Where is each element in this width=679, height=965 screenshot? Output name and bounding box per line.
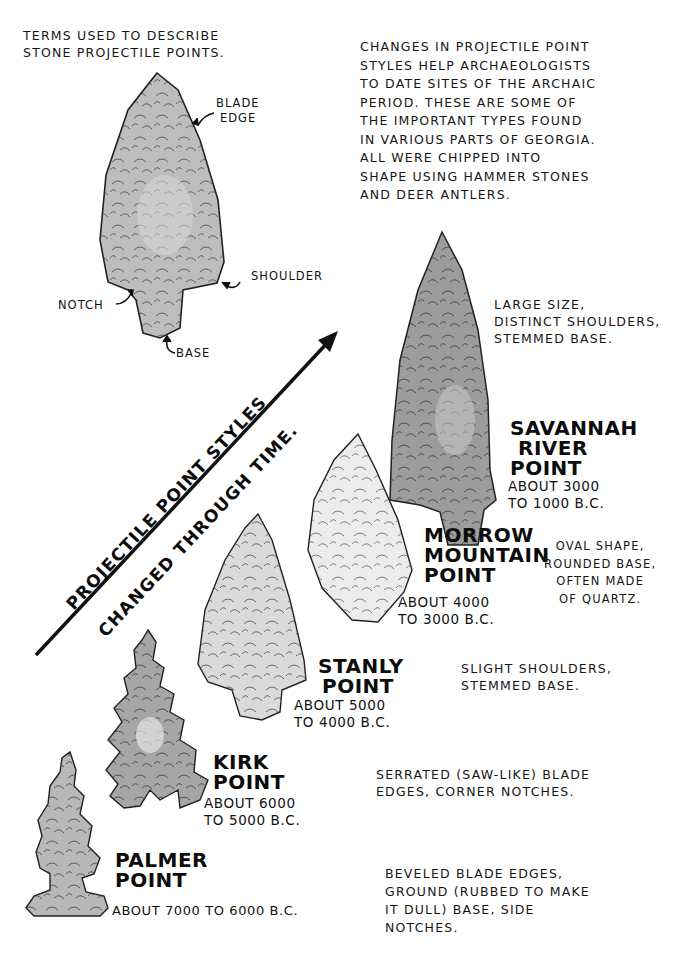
intro-line: All were chipped into bbox=[360, 149, 596, 168]
savannah-river-description: Large size, distinct shoulders, stemmed … bbox=[494, 296, 660, 347]
point-name-line: Point bbox=[510, 458, 638, 478]
point-name-line: Savannah bbox=[510, 418, 638, 438]
date-line: About 6000 bbox=[204, 795, 300, 812]
description-line: of quartz. bbox=[544, 591, 656, 609]
intro-line: shape using hammer stones bbox=[360, 168, 596, 187]
point-name-line: Palmer bbox=[115, 850, 208, 870]
palmer-name: Palmer Point bbox=[115, 850, 208, 890]
terms-heading: Terms used to describe stone projectile … bbox=[23, 27, 225, 61]
point-name-line: Mountain bbox=[424, 545, 550, 565]
date-line: About 5000 bbox=[294, 697, 390, 714]
date-line: About 3000 bbox=[508, 478, 604, 495]
description-line: Oval shape, bbox=[544, 538, 656, 556]
savannah-river-point-illustration bbox=[390, 232, 496, 545]
date-line: to 5000 B.C. bbox=[204, 812, 300, 829]
point-name-line: Morrow bbox=[424, 525, 550, 545]
terms-heading-line-2: stone projectile points. bbox=[23, 44, 225, 61]
date-line: About 7000 to 6000 B.C. bbox=[112, 902, 298, 919]
stanly-point-illustration bbox=[198, 514, 306, 720]
label-notch: Notch bbox=[58, 298, 104, 312]
kirk-name: Kirk Point bbox=[213, 752, 285, 792]
description-line: distinct shoulders, bbox=[494, 313, 660, 330]
kirk-date: About 6000 to 5000 B.C. bbox=[204, 795, 300, 829]
description-line: rounded base, bbox=[544, 556, 656, 574]
description-line: often made bbox=[544, 573, 656, 591]
point-name-line: Point bbox=[424, 565, 550, 585]
description-line: Large size, bbox=[494, 296, 660, 313]
label-blade-edge: Blade Edge bbox=[216, 96, 260, 126]
intro-line: the important types found bbox=[360, 112, 596, 131]
kirk-description: Serrated (saw-like) blade edges, corner … bbox=[376, 766, 590, 800]
palmer-date: About 7000 to 6000 B.C. bbox=[112, 902, 298, 919]
savannah-river-name: Savannah River Point bbox=[510, 418, 638, 478]
point-name-line: Point bbox=[115, 870, 208, 890]
label-shoulder: Shoulder bbox=[251, 269, 323, 283]
label-blade-edge-line-2: Edge bbox=[216, 111, 260, 126]
label-blade-edge-line-1: Blade bbox=[216, 96, 260, 111]
stanly-name: Stanly Point bbox=[318, 656, 404, 696]
description-line: stemmed base. bbox=[461, 677, 612, 694]
intro-description: Changes in projectile point styles help … bbox=[360, 38, 596, 205]
description-line: Slight shoulders, bbox=[461, 660, 612, 677]
intro-line: styles help archaeologists bbox=[360, 57, 596, 76]
description-line: edges, corner notches. bbox=[376, 783, 590, 800]
kirk-point-illustration bbox=[106, 630, 208, 808]
description-line: Serrated (saw-like) blade bbox=[376, 766, 590, 783]
description-line: Beveled blade edges, bbox=[385, 865, 590, 883]
intro-line: in various parts of Georgia. bbox=[360, 131, 596, 150]
date-line: to 4000 B.C. bbox=[294, 714, 390, 731]
palmer-description: Beveled blade edges, ground (rubbed to m… bbox=[385, 865, 590, 937]
date-line: to 3000 B.C. bbox=[398, 611, 494, 628]
label-base: Base bbox=[176, 346, 210, 360]
morrow-mountain-description: Oval shape, rounded base, often made of … bbox=[544, 538, 656, 608]
description-line: notches. bbox=[385, 919, 590, 937]
stanly-description: Slight shoulders, stemmed base. bbox=[461, 660, 612, 694]
point-name-line: Point bbox=[318, 676, 404, 696]
reference-point-illustration bbox=[100, 73, 224, 338]
point-name-line: River bbox=[510, 438, 638, 458]
intro-line: to date sites of the Archaic bbox=[360, 75, 596, 94]
savannah-river-date: About 3000 to 1000 B.C. bbox=[508, 478, 604, 512]
date-line: About 4000 bbox=[398, 594, 494, 611]
description-line: ground (rubbed to make bbox=[385, 883, 590, 901]
description-line: stemmed base. bbox=[494, 330, 660, 347]
morrow-mountain-date: About 4000 to 3000 B.C. bbox=[398, 594, 494, 628]
point-name-line: Kirk bbox=[213, 752, 285, 772]
intro-line: Period. These are some of bbox=[360, 94, 596, 113]
stanly-date: About 5000 to 4000 B.C. bbox=[294, 697, 390, 731]
morrow-mountain-name: Morrow Mountain Point bbox=[424, 525, 550, 585]
terms-heading-line-1: Terms used to describe bbox=[23, 27, 225, 44]
point-name-line: Stanly bbox=[318, 656, 404, 676]
intro-line: and deer antlers. bbox=[360, 186, 596, 205]
description-line: it dull) base, side bbox=[385, 901, 590, 919]
date-line: to 1000 B.C. bbox=[508, 495, 604, 512]
intro-line: Changes in projectile point bbox=[360, 38, 596, 57]
palmer-point-illustration bbox=[26, 752, 108, 916]
point-name-line: Point bbox=[213, 772, 285, 792]
